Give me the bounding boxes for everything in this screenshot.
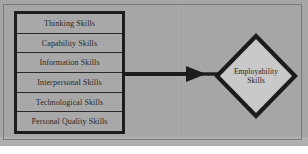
table-row: Technological Skills xyxy=(17,93,122,113)
diamond-shape-icon xyxy=(214,33,298,119)
skill-label-information: Information Skills xyxy=(39,58,99,67)
skill-label-capability: Capability Skills xyxy=(42,39,97,48)
rightward-arrow-icon xyxy=(124,62,220,86)
table-row: Interpersonal Skills xyxy=(17,73,122,93)
skill-label-interpersonal: Interpersonal Skills xyxy=(37,78,101,87)
table-row: Personal Quality Skills xyxy=(17,112,122,131)
skill-label-thinking: Thinking Skills xyxy=(44,19,95,28)
skill-label-personal-quality: Personal Quality Skills xyxy=(31,117,107,126)
diagram-canvas: Thinking Skills Capability Skills Inform… xyxy=(0,0,308,154)
outcome-node: Employability Skills xyxy=(214,33,298,119)
table-row: Capability Skills xyxy=(17,34,122,54)
table-row: Thinking Skills xyxy=(17,14,122,34)
skill-label-technological: Technological Skills xyxy=(36,98,103,107)
skills-table: Thinking Skills Capability Skills Inform… xyxy=(14,11,125,134)
table-row: Information Skills xyxy=(17,53,122,73)
